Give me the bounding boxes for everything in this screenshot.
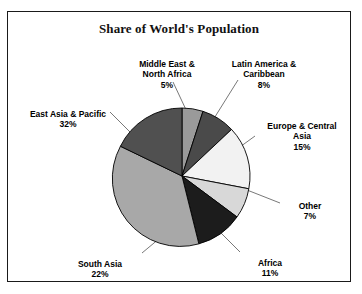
pie-label-middle-east: Middle East & North Africa 5% [128,48,206,101]
pie-label-other-name: Other [299,201,322,211]
pie-label-other-percent: 7% [282,211,338,222]
pie-label-south-asia-percent: 22% [60,269,140,280]
pie-label-africa-percent: 11% [243,268,297,279]
pie-label-middle-east-percent: 5% [128,80,206,91]
pie-label-other: Other 7% [282,190,338,232]
pie-slices [112,108,250,246]
pie-label-south-asia: South Asia 22% [60,248,140,290]
leader-line-other [247,190,280,203]
pie-label-east-asia: East Asia & Pacific 32% [10,98,126,140]
pie-label-east-asia-name: East Asia & Pacific [30,109,106,119]
pie-label-europe-name: Europe & Central Asia [267,121,336,142]
chart-screenshot: Share of World's Population [0,0,362,294]
pie-label-africa-name: Africa [258,258,282,268]
pie-label-middle-east-name: Middle East & North Africa [139,59,195,80]
pie-label-europe-percent: 15% [256,142,348,153]
pie-label-europe: Europe & Central Asia 15% [256,110,348,163]
pie-label-latin-america-percent: 8% [222,80,306,91]
pie-label-latin-america: Latin America & Caribbean 8% [222,48,306,101]
pie-label-latin-america-name: Latin America & Caribbean [232,59,296,80]
pie-label-east-asia-percent: 32% [10,119,126,130]
pie-label-africa: Africa 11% [243,247,297,289]
pie-label-south-asia-name: South Asia [78,259,122,269]
